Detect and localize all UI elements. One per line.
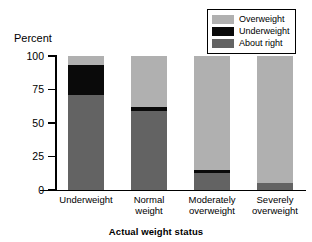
legend-swatch-about-right [212, 39, 234, 48]
y-tick-label-75: 75 [4, 84, 44, 95]
bar-segment-overweight [257, 56, 293, 183]
legend-label-overweight: Overweight [239, 15, 285, 24]
legend-item-underweight: Underweight [212, 26, 290, 37]
bar-severely-overweight [257, 56, 293, 190]
x-tick-label-severely-overweight: Severelyoverweight [238, 194, 312, 216]
x-axis-label: Actual weight status [0, 226, 312, 237]
legend-item-overweight: Overweight [212, 14, 290, 25]
legend-label-underweight: Underweight [239, 27, 290, 36]
bar-moderately-overweight [194, 56, 230, 190]
bar-segment-underweight [194, 170, 230, 173]
legend-swatch-underweight [212, 27, 234, 36]
bar-segment-underweight [68, 65, 104, 94]
bar-segment-about-right [68, 95, 104, 190]
y-tick-label-0: 0 [4, 185, 44, 196]
legend-swatch-overweight [212, 15, 234, 24]
bar-underweight [68, 56, 104, 190]
legend-item-about-right: About right [212, 38, 290, 49]
y-tick-label-25: 25 [4, 151, 44, 162]
bar-segment-overweight [131, 56, 167, 107]
bar-segment-about-right [131, 111, 167, 190]
legend-label-about-right: About right [239, 39, 283, 48]
bar-segment-overweight [68, 56, 104, 65]
bar-segment-overweight [194, 56, 230, 170]
bar-normal-weight [131, 56, 167, 190]
y-tick-label-50: 50 [4, 118, 44, 129]
plot-area [55, 56, 305, 190]
y-axis-label: Percent [14, 33, 52, 44]
stacked-bar-chart: Overweight Underweight About right Perce… [0, 0, 312, 242]
y-tick-label-100: 100 [4, 51, 44, 62]
chart-legend: Overweight Underweight About right [207, 9, 296, 54]
bar-segment-underweight [131, 107, 167, 111]
bar-segment-about-right [194, 173, 230, 190]
bar-segment-about-right [257, 183, 293, 190]
